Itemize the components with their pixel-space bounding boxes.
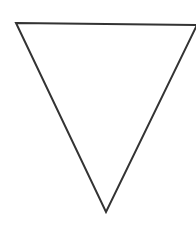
diagram-canvas [0,0,196,235]
triangle-diagram [0,0,196,235]
inverted-triangle-shape [16,23,196,212]
